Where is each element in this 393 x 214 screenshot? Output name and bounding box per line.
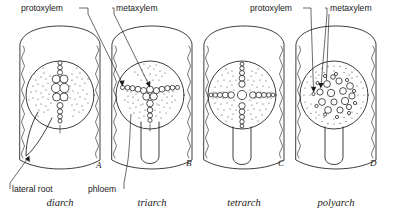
protoxylem-cell bbox=[315, 104, 318, 107]
protoxylem-cell bbox=[352, 89, 355, 92]
metaxylem-cell bbox=[52, 75, 60, 83]
caption-polyarch: polyarch bbox=[317, 197, 355, 208]
metaxylem-cell bbox=[336, 78, 342, 84]
panel-letter-b: B bbox=[186, 158, 192, 168]
protoxylem-cell bbox=[312, 92, 315, 95]
protoxylem-cell bbox=[147, 107, 153, 113]
panel-tetrarch: C tetrarch bbox=[204, 26, 285, 208]
metaxylem-cell bbox=[150, 93, 157, 100]
metaxylem-cell bbox=[250, 92, 256, 98]
caption-diarch: diarch bbox=[46, 197, 73, 208]
metaxylem-cell bbox=[331, 99, 337, 105]
label-protoxylem-2: protoxylem bbox=[250, 3, 292, 13]
leader-metaxylem-2-arrow-b bbox=[327, 14, 330, 80]
leader-protoxylem-2 bbox=[303, 8, 311, 14]
lateral-root-d bbox=[325, 127, 343, 165]
panel-letter-c: C bbox=[278, 158, 285, 168]
protoxylem-cell bbox=[218, 93, 223, 98]
protoxylem-cell bbox=[323, 113, 326, 116]
protoxylem-cell bbox=[213, 93, 217, 97]
protoxylem-cell bbox=[323, 74, 326, 77]
metaxylem-cell bbox=[53, 93, 61, 101]
leader-protoxylem-1-arrow bbox=[88, 14, 123, 84]
protoxylem-cell bbox=[58, 119, 62, 123]
label-protoxylem-1: protoxylem bbox=[21, 3, 63, 13]
panel-letter-d: D bbox=[369, 158, 377, 168]
protoxylem-cell bbox=[58, 61, 62, 65]
protoxylem-cell bbox=[58, 70, 63, 75]
metaxylem-cell bbox=[349, 93, 355, 99]
protoxylem-cell bbox=[262, 93, 267, 98]
metaxylem-cell bbox=[239, 75, 245, 81]
leader-metaxylem-2 bbox=[325, 8, 327, 14]
metaxylem-cell bbox=[331, 75, 336, 80]
protoxylem-cell bbox=[240, 124, 244, 128]
epidermis-left-a bbox=[22, 46, 25, 158]
leader-metaxylem-1 bbox=[112, 8, 114, 14]
leader-protoxylem-2-arrow bbox=[311, 14, 314, 90]
metaxylem-cell bbox=[319, 99, 326, 106]
protoxylem-cell bbox=[240, 120, 244, 124]
protoxylem-cell bbox=[347, 111, 350, 114]
protoxylem-cell bbox=[57, 109, 62, 114]
protoxylem-cell bbox=[165, 86, 170, 91]
protoxylem-cell bbox=[125, 85, 130, 90]
metaxylem-cell bbox=[237, 90, 246, 99]
protoxylem-cell bbox=[271, 93, 275, 97]
protoxylem-cell bbox=[148, 113, 153, 118]
protoxylem-cell bbox=[240, 71, 245, 76]
protoxylem-cell bbox=[345, 78, 348, 81]
protoxylem-cell bbox=[240, 115, 245, 120]
protoxylem-cell bbox=[353, 101, 356, 104]
epidermis-left-b bbox=[114, 46, 117, 158]
panel-triarch: B triarch bbox=[112, 26, 192, 208]
protoxylem-cell bbox=[209, 93, 213, 97]
epidermis-right-b bbox=[188, 46, 191, 158]
epidermis-right-d bbox=[372, 46, 375, 158]
protoxylem-cell bbox=[170, 85, 175, 90]
metaxylem-cell bbox=[60, 83, 69, 92]
protoxylem-cell bbox=[58, 65, 63, 70]
root-stele-figure: A diarch bbox=[0, 0, 393, 214]
xylem-diarch bbox=[51, 61, 69, 133]
metaxylem-cell bbox=[327, 89, 334, 96]
epidermis-right-a bbox=[96, 46, 99, 158]
metaxylem-cell bbox=[346, 104, 351, 109]
caption-tetrarch: tetrarch bbox=[227, 197, 260, 208]
protoxylem-cell bbox=[130, 86, 135, 91]
metaxylem-cell bbox=[222, 92, 228, 98]
metaxylem-cell bbox=[239, 103, 245, 109]
leader-protoxylem-1 bbox=[79, 8, 88, 14]
lateral-root-c bbox=[233, 127, 251, 165]
metaxylem-cell bbox=[60, 75, 68, 83]
xylem-tetrarch bbox=[209, 62, 275, 128]
label-metaxylem-2: metaxylem bbox=[330, 3, 372, 13]
epidermis-right-c bbox=[280, 46, 283, 158]
label-metaxylem-1: metaxylem bbox=[116, 3, 158, 13]
figure-canvas: A diarch bbox=[0, 0, 393, 214]
metaxylem-cell bbox=[147, 100, 154, 107]
xylem-polyarch bbox=[312, 72, 357, 118]
metaxylem-cell bbox=[347, 83, 354, 90]
protoxylem-cell bbox=[58, 114, 63, 119]
metaxylem-cell bbox=[340, 88, 347, 95]
metaxylem-cell bbox=[337, 107, 343, 113]
panel-letter-a: A bbox=[95, 160, 102, 170]
lateral-root-a bbox=[26, 112, 52, 156]
metaxylem-cell bbox=[256, 92, 262, 98]
metaxylem-cell bbox=[57, 103, 63, 109]
metaxylem-cell bbox=[228, 92, 234, 98]
metaxylem-cell bbox=[239, 109, 245, 115]
metaxylem-cell bbox=[143, 93, 150, 100]
metaxylem-cell bbox=[317, 89, 323, 95]
protoxylem-cell bbox=[148, 118, 152, 122]
label-phloem: phloem bbox=[88, 184, 116, 194]
protoxylem-cell bbox=[267, 93, 271, 97]
panel-diarch: A diarch bbox=[20, 26, 102, 208]
metaxylem-cell bbox=[159, 86, 165, 92]
caption-triarch: triarch bbox=[138, 197, 167, 208]
epidermis-left-d bbox=[298, 46, 301, 158]
protoxylem-cell bbox=[240, 66, 244, 70]
metaxylem-cell bbox=[324, 81, 331, 88]
leader-metaxylem-1-arrow bbox=[114, 14, 149, 85]
